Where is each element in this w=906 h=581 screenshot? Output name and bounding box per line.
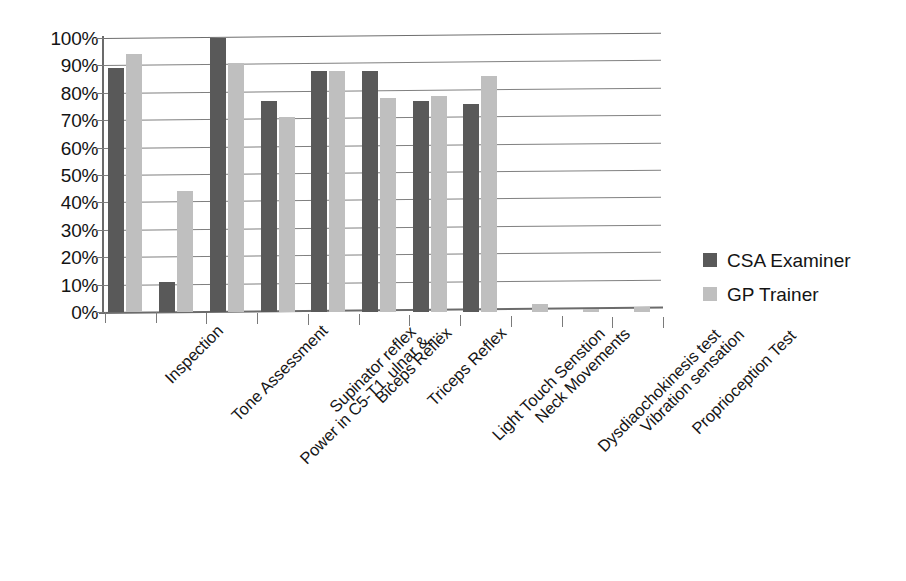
bar — [279, 117, 295, 312]
x-axis-label: Inspection — [162, 322, 227, 387]
y-axis-tick — [96, 312, 104, 313]
bar — [362, 71, 378, 312]
bar — [481, 76, 497, 312]
bar — [261, 101, 277, 312]
bar — [329, 71, 345, 312]
y-axis-tick-label: 80% — [28, 83, 98, 102]
x-axis-label: Tone Assessment — [229, 322, 331, 424]
y-axis-tick — [96, 38, 104, 39]
y-axis-tick-label: 30% — [28, 220, 98, 239]
y-axis-tick — [96, 202, 104, 203]
y-axis-tick-label: 40% — [28, 193, 98, 212]
bar — [177, 191, 193, 312]
y-axis-tick-label: 50% — [28, 166, 98, 185]
y-axis-tick-label: 90% — [28, 56, 98, 75]
y-axis-tick — [96, 175, 104, 176]
y-axis-tick — [96, 285, 104, 286]
y-axis-tick-label: 70% — [28, 111, 98, 130]
x-axis-label: Light Touch Senstion — [489, 325, 608, 444]
bar — [311, 71, 327, 312]
legend-item: GP Trainer — [703, 277, 898, 311]
bars-layer — [103, 38, 661, 312]
bar — [108, 68, 124, 312]
bar — [126, 54, 142, 312]
bar — [431, 96, 447, 312]
bar — [210, 38, 226, 312]
bar — [159, 282, 175, 312]
bar — [532, 304, 548, 312]
bar — [463, 104, 479, 312]
legend-label: CSA Examiner — [727, 251, 851, 270]
y-axis-tick — [96, 257, 104, 258]
y-axis-tick-label: 10% — [28, 275, 98, 294]
x-axis-category-labels: InspectionTone AssessmentPower in C5-T1,… — [0, 316, 906, 546]
legend-swatch-icon — [703, 253, 717, 267]
bar — [413, 101, 429, 312]
bar — [380, 98, 396, 312]
y-axis-tick — [96, 93, 104, 94]
y-axis-tick-label: 100% — [28, 29, 98, 48]
y-axis-tick — [96, 230, 104, 231]
y-axis-tick — [96, 65, 104, 66]
y-axis-tick — [96, 120, 104, 121]
bar — [228, 63, 244, 312]
y-axis-tick-label: 60% — [28, 138, 98, 157]
y-axis-tick-label: 20% — [28, 248, 98, 267]
plot-area — [103, 38, 661, 312]
y-axis: 100%90%80%70%60%50%40%30%20%10%0% — [28, 28, 98, 312]
legend-swatch-icon — [703, 287, 717, 301]
chart-legend: CSA ExaminerGP Trainer — [703, 243, 898, 311]
legend-label: GP Trainer — [727, 285, 819, 304]
bar-chart: 100%90%80%70%60%50%40%30%20%10%0% Inspec… — [0, 0, 906, 581]
legend-item: CSA Examiner — [703, 243, 898, 277]
y-axis-tick — [96, 148, 104, 149]
